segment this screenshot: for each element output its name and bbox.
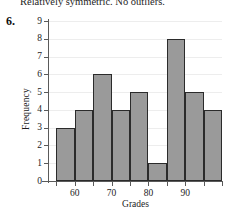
x-tick-label: 60 [62, 188, 88, 198]
x-tick-label: 70 [99, 188, 125, 198]
histogram-bar [148, 163, 166, 181]
y-tick-mark [44, 110, 49, 111]
x-tick-mark [167, 181, 168, 186]
y-tick-mark [44, 181, 49, 182]
y-tick-label: 4 [20, 105, 42, 114]
x-tick-mark [222, 181, 223, 186]
gridline [49, 39, 222, 40]
y-tick-mark [44, 145, 49, 146]
y-tick-mark [44, 74, 49, 75]
x-tick-label: 90 [172, 188, 198, 198]
x-tick-mark [56, 181, 57, 186]
y-tick-mark [44, 57, 49, 58]
y-axis-line [48, 19, 49, 183]
gridline [49, 21, 222, 22]
y-tick-mark [44, 39, 49, 40]
histogram-bar [167, 39, 185, 181]
y-tick-label: 8 [20, 34, 42, 43]
x-tick-label: 80 [135, 188, 161, 198]
histogram-bar [75, 110, 93, 181]
histogram-figure: Frequency 0123456789 60708090 Grades [0, 12, 228, 213]
y-tick-mark [44, 92, 49, 93]
y-tick-label: 2 [20, 141, 42, 150]
x-tick-mark [112, 181, 113, 186]
x-tick-mark [204, 181, 205, 186]
histogram-bar [130, 92, 148, 181]
x-axis-line [42, 181, 223, 182]
y-tick-label: 9 [20, 17, 42, 26]
plot-area [49, 21, 222, 181]
x-tick-mark [93, 181, 94, 186]
y-tick-label: 1 [20, 159, 42, 168]
x-axis-title: Grades [49, 199, 222, 209]
gridline [49, 74, 222, 75]
histogram-bar [56, 128, 74, 181]
y-tick-label: 3 [20, 123, 42, 132]
histogram-bar [204, 110, 222, 181]
histogram-bar [112, 110, 130, 181]
y-tick-label: 0 [20, 177, 42, 186]
y-tick-mark [44, 128, 49, 129]
y-tick-label: 7 [20, 52, 42, 61]
y-tick-mark [44, 163, 49, 164]
histogram-bar [185, 92, 203, 181]
x-tick-mark [148, 181, 149, 186]
y-tick-label: 6 [20, 70, 42, 79]
histogram-bar [93, 74, 111, 181]
gridline [49, 57, 222, 58]
caption-text: Relatively symmetric. No outliers. [20, 0, 220, 8]
x-tick-mark [130, 181, 131, 186]
x-tick-mark [75, 181, 76, 186]
x-tick-mark [185, 181, 186, 186]
y-tick-label: 5 [20, 88, 42, 97]
y-tick-mark [44, 21, 49, 22]
